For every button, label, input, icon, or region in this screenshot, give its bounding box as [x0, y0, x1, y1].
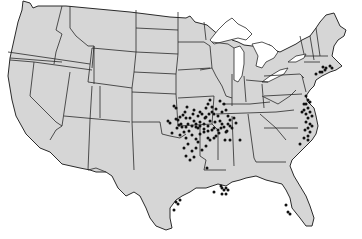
location-marker [227, 189, 230, 192]
location-marker [305, 121, 308, 124]
location-marker [189, 159, 192, 162]
location-marker [225, 193, 228, 196]
location-marker [191, 150, 194, 153]
location-marker [206, 167, 209, 170]
location-marker [193, 109, 196, 112]
location-marker [303, 103, 306, 106]
location-marker [307, 107, 310, 110]
location-marker [321, 71, 324, 74]
location-marker [184, 111, 187, 114]
location-marker [185, 126, 188, 129]
location-marker [215, 108, 218, 111]
location-marker [213, 127, 216, 130]
location-marker [325, 67, 328, 70]
location-marker [195, 138, 198, 141]
location-marker [208, 113, 211, 116]
location-marker [309, 131, 312, 134]
location-marker [217, 129, 220, 132]
location-marker [213, 113, 216, 116]
location-marker [203, 131, 206, 134]
location-marker [307, 117, 310, 120]
location-marker [192, 113, 195, 116]
location-marker [175, 107, 178, 110]
location-marker [223, 103, 226, 106]
location-marker [182, 114, 185, 117]
location-marker [177, 203, 180, 206]
location-marker [183, 131, 186, 134]
location-marker [181, 126, 184, 129]
location-marker [235, 122, 238, 125]
location-marker [199, 121, 202, 124]
location-marker [195, 123, 198, 126]
location-marker [322, 66, 325, 69]
location-marker [193, 156, 196, 159]
location-marker [187, 143, 190, 146]
location-marker [305, 95, 308, 98]
location-marker [191, 125, 194, 128]
location-marker [205, 107, 208, 110]
location-marker [289, 213, 292, 216]
location-marker [211, 106, 214, 109]
location-marker [199, 133, 202, 136]
lake-superior [210, 18, 252, 44]
location-marker [226, 130, 229, 133]
location-marker [197, 141, 200, 144]
location-marker [201, 149, 204, 152]
location-marker [207, 125, 210, 128]
location-marker [179, 116, 182, 119]
location-marker [195, 147, 198, 150]
location-marker [307, 135, 310, 138]
location-marker [177, 119, 180, 122]
location-marker [189, 117, 192, 120]
location-marker [213, 191, 216, 194]
location-marker [176, 127, 179, 130]
location-marker [307, 127, 310, 130]
location-marker [209, 99, 212, 102]
location-marker [221, 193, 224, 196]
location-marker [239, 139, 242, 142]
location-marker [193, 120, 196, 123]
location-marker [183, 147, 186, 150]
location-marker [178, 124, 181, 127]
us-map [0, 0, 362, 239]
location-marker [219, 100, 222, 103]
location-marker [191, 134, 194, 137]
location-marker [305, 113, 308, 116]
location-marker [299, 143, 302, 146]
location-marker [204, 117, 207, 120]
location-marker [331, 67, 334, 70]
location-marker [304, 129, 307, 132]
location-marker [301, 111, 304, 114]
location-marker [229, 119, 232, 122]
location-marker [311, 125, 314, 128]
location-marker [307, 139, 310, 142]
location-marker [197, 115, 200, 118]
location-marker [303, 137, 306, 140]
location-marker [179, 134, 182, 137]
location-marker [225, 109, 228, 112]
location-marker [217, 115, 220, 118]
location-marker [173, 209, 176, 212]
location-marker [220, 127, 223, 130]
location-marker [219, 120, 222, 123]
location-marker [227, 115, 230, 118]
location-marker [205, 145, 208, 148]
location-marker [223, 126, 226, 129]
location-marker [233, 117, 236, 120]
location-marker [229, 125, 232, 128]
location-marker [185, 155, 188, 158]
location-marker [218, 132, 221, 135]
location-marker [309, 111, 312, 114]
location-marker [214, 121, 217, 124]
location-marker [167, 120, 170, 123]
location-marker [207, 130, 210, 133]
location-marker [171, 132, 174, 135]
location-marker [209, 120, 212, 123]
location-marker [224, 139, 227, 142]
location-marker [188, 130, 191, 133]
location-marker [315, 73, 318, 76]
location-marker [187, 123, 190, 126]
location-marker [203, 128, 206, 131]
location-marker [309, 101, 312, 104]
location-marker [221, 111, 224, 114]
